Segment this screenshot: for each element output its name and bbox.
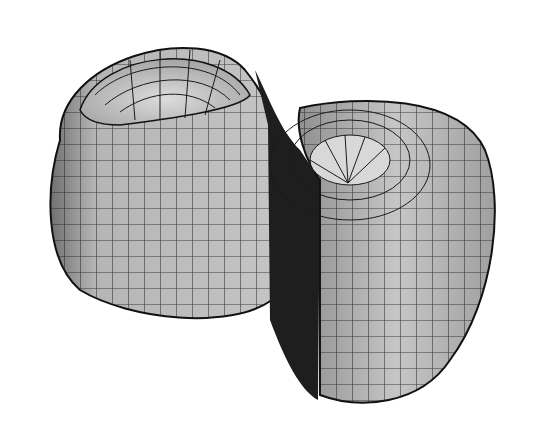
surface-figure — [0, 0, 547, 436]
left-lobe — [50, 48, 272, 318]
